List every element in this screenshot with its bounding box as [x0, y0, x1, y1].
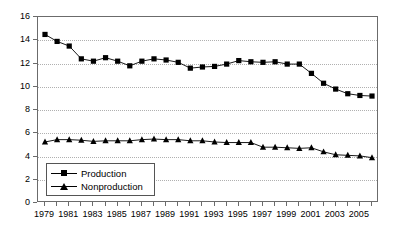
data-point-marker: [309, 71, 314, 76]
data-point-marker: [345, 91, 350, 96]
data-point-marker: [200, 64, 205, 69]
x-tick-label: 1985: [107, 209, 127, 219]
data-point-marker: [79, 56, 84, 61]
x-tick-mark: [68, 202, 69, 206]
series-line-production: [45, 34, 372, 96]
x-tick-mark: [117, 202, 118, 206]
x-tick-mark: [44, 202, 45, 206]
x-tick-label: 1989: [155, 209, 175, 219]
x-tick-mark: [201, 202, 202, 206]
x-tick-mark: [129, 202, 130, 206]
legend-item-nonproduction: Nonproduction: [51, 180, 150, 193]
x-tick-label: 1995: [228, 209, 248, 219]
data-point-marker: [236, 58, 241, 63]
x-tick-mark: [298, 202, 299, 206]
x-tick-mark: [177, 202, 178, 206]
x-tick-mark: [262, 202, 263, 206]
data-point-marker: [42, 32, 47, 37]
y-tick-label: 12: [20, 58, 30, 67]
x-tick-mark: [310, 202, 311, 206]
x-tick-label: 1983: [82, 209, 102, 219]
y-tick-label: 8: [25, 105, 30, 114]
x-tick-mark: [323, 202, 324, 206]
data-point-marker: [127, 63, 132, 68]
data-point-marker: [54, 136, 60, 142]
data-point-marker: [188, 66, 193, 71]
data-point-marker: [321, 81, 326, 86]
x-tick-mark: [165, 202, 166, 206]
data-point-marker: [55, 39, 60, 44]
x-tick-label: 2005: [349, 209, 369, 219]
data-point-marker: [260, 60, 265, 65]
data-point-marker: [199, 137, 205, 143]
data-point-marker: [102, 137, 108, 143]
data-point-marker: [115, 137, 121, 143]
data-point-marker: [67, 43, 72, 48]
data-point-marker: [236, 139, 242, 145]
data-point-marker: [273, 59, 278, 64]
x-tick-mark: [226, 202, 227, 206]
data-point-marker: [212, 64, 217, 69]
x-tick-label: 1997: [252, 209, 272, 219]
y-tick-label: 16: [20, 12, 30, 21]
x-tick-label: 1993: [204, 209, 224, 219]
x-tick-label: 1987: [131, 209, 151, 219]
x-tick-label: 2003: [325, 209, 345, 219]
data-point-marker: [175, 136, 181, 142]
data-point-marker: [248, 139, 254, 145]
data-point-marker: [333, 86, 338, 91]
x-tick-mark: [141, 202, 142, 206]
x-tick-mark: [286, 202, 287, 206]
data-point-marker: [297, 61, 302, 66]
data-point-marker: [151, 56, 156, 61]
triangle-marker-icon: [51, 181, 77, 192]
x-tick-mark: [274, 202, 275, 206]
data-point-marker: [91, 59, 96, 64]
x-tick-mark: [347, 202, 348, 206]
x-tick-mark: [214, 202, 215, 206]
x-tick-mark: [371, 202, 372, 206]
x-tick-mark: [92, 202, 93, 206]
x-tick-mark: [250, 202, 251, 206]
x-tick-label: 1999: [276, 209, 296, 219]
data-point-marker: [369, 93, 374, 98]
x-tick-mark: [153, 202, 154, 206]
y-tick-label: 0: [25, 198, 30, 207]
x-tick-label: 1981: [58, 209, 78, 219]
data-point-marker: [151, 136, 157, 142]
data-point-marker: [285, 61, 290, 66]
x-tick-mark: [335, 202, 336, 206]
data-point-marker: [357, 93, 362, 98]
y-tick-label: 14: [20, 35, 30, 44]
x-axis: 1979198119831985198719891991199319951997…: [37, 202, 378, 236]
y-axis: 0246810121416: [0, 0, 37, 236]
data-point-marker: [176, 60, 181, 65]
x-tick-mark: [105, 202, 106, 206]
y-tick-label: 6: [25, 128, 30, 137]
x-tick-label: 1979: [34, 209, 54, 219]
x-tick-label: 1991: [179, 209, 199, 219]
y-tick-label: 4: [25, 151, 30, 160]
data-point-marker: [66, 136, 72, 142]
data-point-marker: [103, 55, 108, 60]
chart-container: 0246810121416 19791981198319851987198919…: [0, 0, 396, 236]
data-point-marker: [308, 144, 314, 150]
x-tick-mark: [189, 202, 190, 206]
legend-label-production: Production: [81, 168, 126, 179]
data-point-marker: [272, 144, 278, 150]
y-tick-label: 10: [20, 81, 30, 90]
legend-item-production: Production: [51, 167, 150, 180]
y-tick-label: 2: [25, 174, 30, 183]
x-tick-mark: [56, 202, 57, 206]
square-marker-icon: [51, 168, 77, 179]
legend-label-nonproduction: Nonproduction: [81, 181, 143, 192]
x-tick-mark: [238, 202, 239, 206]
data-point-marker: [248, 59, 253, 64]
data-point-marker: [115, 59, 120, 64]
chart-legend: Production Nonproduction: [46, 163, 155, 196]
data-point-marker: [224, 61, 229, 66]
x-tick-mark: [80, 202, 81, 206]
x-tick-mark: [359, 202, 360, 206]
data-point-marker: [164, 57, 169, 62]
x-tick-label: 2001: [300, 209, 320, 219]
